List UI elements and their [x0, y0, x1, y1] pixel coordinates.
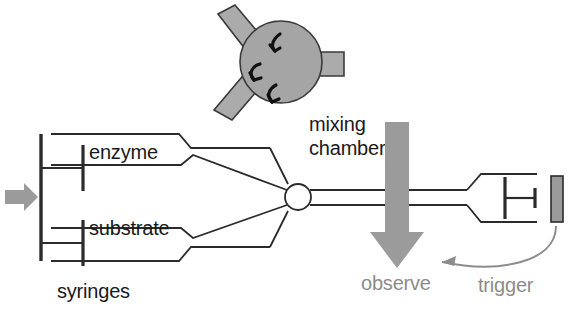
mixing-chamber-label-line2: chamber	[309, 137, 386, 159]
syringes-label: syringes	[57, 280, 130, 302]
diagram-canvas: mixing chamber enzyme	[0, 0, 572, 325]
stop-syringe	[467, 174, 563, 222]
stopped-flow-diagram: mixing chamber enzyme	[0, 0, 572, 325]
enzyme-barrel-bottom-wall	[51, 155, 287, 190]
enzyme-channel-top	[270, 148, 288, 184]
drive-arrow-icon	[5, 183, 38, 211]
mixing-chamber-label-line1: mixing	[309, 113, 366, 135]
stop-syringe-bottom-wall	[467, 205, 537, 222]
mixing-chamber-group	[214, 5, 344, 120]
stop-syringe-top-wall	[467, 174, 537, 190]
trigger-label: trigger	[478, 274, 534, 296]
stop-block-icon	[551, 176, 563, 222]
trigger-curved-arrow-icon	[442, 226, 556, 267]
substrate-channel-bottom	[270, 211, 288, 247]
substrate-label: substrate	[89, 217, 170, 239]
enzyme-label: enzyme	[89, 141, 158, 163]
trigger-arrow-head	[442, 256, 456, 266]
enzyme-syringe	[41, 134, 288, 191]
observe-label: observe	[361, 272, 431, 294]
mixing-junction	[285, 184, 311, 210]
